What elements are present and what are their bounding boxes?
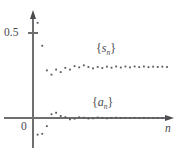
data-point xyxy=(106,117,108,119)
data-point xyxy=(78,116,80,118)
data-point xyxy=(115,66,117,68)
data-point xyxy=(106,66,108,68)
data-point xyxy=(37,134,39,136)
data-point xyxy=(64,67,66,69)
data-point xyxy=(161,117,163,119)
axes-group xyxy=(4,10,174,148)
data-point xyxy=(97,117,99,119)
data-point xyxy=(111,117,113,119)
data-point xyxy=(115,117,117,119)
y-axis-tick-label-half: 0.5 xyxy=(4,27,18,39)
data-point xyxy=(69,118,71,120)
data-point xyxy=(157,66,159,68)
data-point xyxy=(83,64,85,66)
data-point xyxy=(64,116,66,118)
data-point xyxy=(157,117,159,119)
data-point xyxy=(74,65,76,67)
data-point xyxy=(74,118,76,120)
data-point xyxy=(46,70,48,72)
data-point xyxy=(92,117,94,119)
data-point xyxy=(129,117,131,119)
data-point xyxy=(125,66,127,68)
data-point xyxy=(143,117,145,119)
data-point xyxy=(138,117,140,119)
series-label-sn: {sn} xyxy=(96,42,116,57)
data-point xyxy=(125,117,127,119)
series-label-an-close-brace: } xyxy=(108,95,114,109)
plot-canvas xyxy=(0,0,179,157)
data-point xyxy=(41,133,43,135)
sequence-convergence-figure: 0.5 0 n {sn} {an} xyxy=(0,0,179,157)
data-point xyxy=(37,22,39,24)
data-point xyxy=(101,117,103,119)
data-point xyxy=(83,117,85,119)
data-point xyxy=(138,66,140,68)
data-point xyxy=(166,66,168,68)
data-point xyxy=(148,66,150,68)
data-point xyxy=(55,69,57,71)
data-point xyxy=(148,117,150,119)
data-point xyxy=(60,115,62,117)
series-label-an: {an} xyxy=(92,96,113,111)
data-point xyxy=(51,74,53,76)
data-point xyxy=(97,66,99,68)
series-label-sn-close-brace: } xyxy=(110,41,116,55)
series-an-points xyxy=(37,112,168,136)
data-point xyxy=(120,117,122,119)
data-point xyxy=(152,66,154,68)
data-point xyxy=(101,67,103,69)
data-point xyxy=(78,66,80,68)
data-point xyxy=(55,112,57,114)
data-point xyxy=(41,45,43,47)
x-axis-label: n xyxy=(165,123,171,135)
data-point xyxy=(166,117,168,119)
data-point xyxy=(51,113,53,115)
y-axis-arrow-icon xyxy=(30,10,36,19)
data-point xyxy=(134,117,136,119)
data-point xyxy=(120,67,122,69)
data-point xyxy=(46,125,48,127)
data-point xyxy=(111,67,113,69)
data-point xyxy=(143,66,145,68)
data-point xyxy=(161,66,163,68)
y-axis-tick-label-zero: 0 xyxy=(21,121,27,133)
data-point xyxy=(134,66,136,68)
data-point xyxy=(60,71,62,73)
data-point xyxy=(69,69,71,71)
data-point xyxy=(152,117,154,119)
data-point xyxy=(92,67,94,69)
data-point xyxy=(129,66,131,68)
data-point xyxy=(88,66,90,68)
data-point xyxy=(88,118,90,120)
